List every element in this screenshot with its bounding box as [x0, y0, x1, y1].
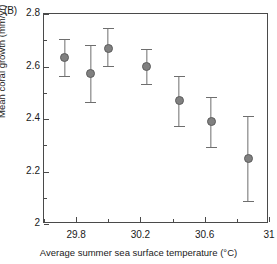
error-bar-cap-upper	[85, 45, 96, 46]
data-point-marker	[244, 154, 253, 163]
x-tick-mark	[205, 217, 206, 222]
x-tick-mark	[269, 217, 270, 222]
error-bar-cap-upper	[59, 39, 70, 40]
y-tick-mark	[44, 119, 49, 120]
y-axis-title: Mean coral growth (mm/yr)	[0, 5, 7, 119]
data-point-marker	[175, 96, 184, 105]
error-bar-cap-upper	[174, 76, 185, 77]
error-bar-cap-lower	[59, 76, 70, 77]
data-point-marker	[142, 62, 151, 71]
error-bar-cap-upper	[103, 28, 114, 29]
x-tick-mark	[76, 217, 77, 222]
y-tick-mark	[44, 67, 49, 68]
y-tick-minor	[44, 93, 47, 94]
y-tick-label: 2	[34, 217, 40, 228]
y-tick-minor	[44, 145, 47, 146]
figure-panel-b: (B) Mean coral growth (mm/yr) Average su…	[0, 0, 277, 264]
y-tick-label: 2.8	[26, 7, 40, 18]
x-tick-mark	[140, 217, 141, 222]
data-point-marker	[60, 53, 69, 62]
y-tick-mark	[44, 224, 49, 225]
error-bar-cap-lower	[103, 66, 114, 67]
error-bar-cap-upper	[206, 97, 217, 98]
x-tick-minor	[173, 219, 174, 222]
error-bar-cap-upper	[243, 116, 254, 117]
error-bar-cap-lower	[243, 201, 254, 202]
y-tick-label: 2.6	[26, 60, 40, 71]
y-tick-mark	[44, 14, 49, 15]
x-tick-label: 30.2	[131, 229, 150, 240]
x-tick-label: 31	[263, 229, 274, 240]
y-tick-label: 2.4	[26, 112, 40, 123]
error-bar-cap-lower	[141, 84, 152, 85]
x-axis-title: Average summer sea surface temperature (…	[0, 247, 277, 258]
y-tick-label: 2.2	[26, 165, 40, 176]
x-tick-minor	[108, 219, 109, 222]
plot-inner: 22.22.42.62.829.830.230.631	[44, 14, 267, 222]
x-tick-minor	[237, 219, 238, 222]
data-point-marker	[104, 44, 113, 53]
x-tick-minor	[44, 219, 45, 222]
y-tick-minor	[44, 40, 47, 41]
y-tick-mark	[44, 172, 49, 173]
error-bar-cap-lower	[206, 147, 217, 148]
plot-area: 22.22.42.62.829.830.230.631	[43, 13, 268, 223]
data-point-marker	[86, 69, 95, 78]
error-bar-cap-lower	[174, 126, 185, 127]
error-bar-cap-lower	[85, 102, 96, 103]
error-bar-cap-upper	[141, 49, 152, 50]
x-tick-label: 30.6	[195, 229, 214, 240]
y-tick-minor	[44, 198, 47, 199]
data-point-marker	[207, 117, 216, 126]
x-tick-label: 29.8	[66, 229, 85, 240]
